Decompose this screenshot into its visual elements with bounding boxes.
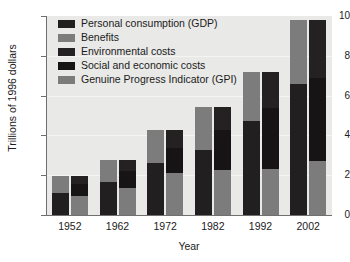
bar-gpi-1972 [166,130,183,215]
bar-segment [262,72,279,108]
bar-gpi-1982 [214,107,231,215]
chart-legend: Personal consumption (GDP)BenefitsEnviro… [58,17,237,86]
y-tick-mark [41,96,46,97]
legend-swatch-gpi [58,76,75,84]
bar-consumption-1952 [52,176,69,215]
y-axis-line [46,16,47,215]
legend-item-label: Benefits [81,32,119,43]
bar-segment [100,182,117,215]
legend-item: Social and economic costs [58,59,237,72]
y-tick-label: 4 [312,130,350,140]
x-tick-label: 1982 [201,220,224,232]
bar-segment [166,130,183,148]
bar-gpi-2002 [309,20,326,215]
y-tick-mark [41,175,46,176]
gridline [46,175,332,176]
y-tick-mark [41,16,46,17]
chart-figure: 0246810 Trillions of 1996 dollars 195219… [0,0,350,262]
bar-segment [71,176,88,184]
bar-segment [195,150,212,215]
bar-segment [147,163,164,215]
legend-item-label: Personal consumption (GDP) [81,18,218,29]
bar-segment [214,130,231,170]
legend-item: Genuine Progress Indicator (GPI) [58,73,237,86]
y-axis-title: Trillions of 1996 dollars [6,23,18,173]
legend-item: Benefits [58,31,237,44]
legend-item: Personal consumption (GDP) [58,17,237,30]
bar-segment [166,148,183,173]
bar-segment [262,169,279,215]
bar-segment [243,121,260,215]
legend-swatch-gdp [58,20,75,28]
bar-gpi-1952 [71,176,88,215]
y-tick-label: 6 [312,91,350,101]
x-tick-label: 2002 [296,220,319,232]
y-tick-label: 2 [312,170,350,180]
bar-segment [243,72,260,122]
bar-gpi-1992 [262,72,279,215]
bar-consumption-1972 [147,130,164,215]
bar-gpi-1962 [119,160,136,215]
bar-segment [147,130,164,163]
bar-segment [52,193,69,215]
x-axis-title: Year [46,240,332,252]
legend-swatch-environmental-costs [58,48,75,56]
y-tick-label: 8 [312,51,350,61]
bar-consumption-1962 [100,160,117,215]
legend-item-label: Social and economic costs [81,60,205,71]
bar-consumption-1992 [243,72,260,215]
x-tick-label: 1952 [58,220,81,232]
bar-segment [214,107,231,131]
bar-segment [119,188,136,215]
y-tick-label: 10 [312,11,350,21]
bar-segment [290,84,307,215]
gridline [46,96,332,97]
bar-segment [262,108,279,170]
bar-segment [71,184,88,196]
bar-segment [119,171,136,188]
x-axis-line [46,215,332,216]
legend-swatch-social-economic-costs [58,62,75,70]
bar-segment [214,170,231,215]
gridline [46,135,332,136]
bar-segment [195,107,212,151]
y-tick-mark [41,215,46,216]
bar-consumption-1982 [195,107,212,215]
y-tick-mark [41,56,46,57]
y-tick-mark [41,135,46,136]
bar-segment [290,20,307,84]
bar-segment [71,196,88,215]
y-tick-label: 0 [312,210,350,220]
bar-segment [309,20,326,78]
bar-segment [166,173,183,215]
legend-item: Environmental costs [58,45,237,58]
bar-segment [52,176,69,193]
bar-segment [100,160,117,182]
bar-consumption-2002 [290,20,307,215]
bar-segment [119,160,136,171]
legend-item-label: Environmental costs [81,46,176,57]
legend-item-label: Genuine Progress Indicator (GPI) [81,74,237,85]
x-tick-label: 1962 [106,220,129,232]
legend-swatch-benefits [58,34,75,42]
x-tick-label: 1992 [249,220,272,232]
x-tick-label: 1972 [153,220,176,232]
